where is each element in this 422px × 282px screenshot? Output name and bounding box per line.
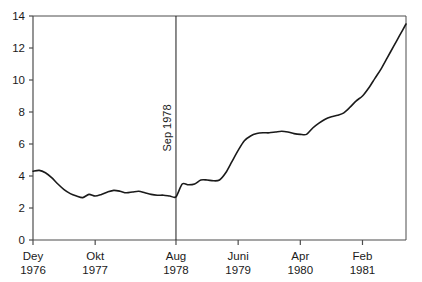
series-line (33, 24, 406, 198)
chart-figure: 02468101214 Dey1976Okt1977Aug1978Juni197… (0, 0, 422, 282)
y-tick-label: 6 (19, 138, 25, 150)
x-tick-month: Apr (291, 250, 309, 262)
y-tick-label: 2 (19, 202, 25, 214)
x-tick-year: 1981 (350, 264, 376, 276)
y-tick-label: 14 (12, 10, 25, 22)
x-tick-month: Okt (86, 250, 105, 262)
axis-frame (33, 16, 406, 240)
x-tick-month: Aug (166, 250, 186, 262)
chart-annotations: Sep 1978 (161, 16, 176, 240)
y-tick-label: 4 (19, 170, 26, 182)
x-axis-ticks: Dey1976Okt1977Aug1978Juni1979Apr1980Feb1… (20, 240, 375, 276)
x-tick-year: 1980 (288, 264, 314, 276)
x-tick-year: 1978 (163, 264, 189, 276)
data-series (33, 24, 406, 198)
line-chart: 02468101214 Dey1976Okt1977Aug1978Juni197… (0, 0, 422, 282)
y-tick-label: 0 (19, 234, 25, 246)
x-tick-year: 1977 (82, 264, 108, 276)
y-tick-label: 12 (12, 42, 25, 54)
x-tick-year: 1979 (225, 264, 251, 276)
x-tick-month: Feb (353, 250, 373, 262)
y-tick-label: 10 (12, 74, 25, 86)
y-tick-label: 8 (19, 106, 25, 118)
x-tick-month: Dey (23, 250, 44, 262)
y-axis-ticks: 02468101214 (12, 10, 33, 246)
x-tick-month: Juni (228, 250, 249, 262)
annotation-label: Sep 1978 (161, 104, 173, 151)
x-tick-year: 1976 (20, 264, 46, 276)
